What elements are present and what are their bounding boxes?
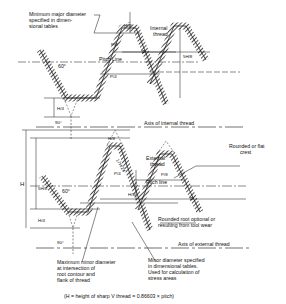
internal-p8-label: P/8	[111, 42, 118, 47]
internal-thread-profile	[18, 12, 240, 140]
internal-pitch-line-label: Pitch Line	[99, 56, 122, 62]
internal-h8-label: H/8	[124, 23, 131, 28]
internal-thread-label-2: thread	[153, 31, 168, 37]
external-thread-label-2: thread	[150, 161, 165, 167]
external-pitch-line-label: Pitch line	[146, 179, 167, 185]
internal-5h8-label: 5H/8	[183, 54, 193, 59]
internal-h4-label: H/4	[57, 106, 64, 111]
external-h4-label: H/4	[38, 218, 45, 223]
minor-note-4: stress areas	[148, 275, 177, 281]
max-minor-note-4: flank of thread	[57, 277, 90, 283]
external-p8-label: P/8	[161, 172, 168, 177]
internal-p-label: P	[142, 49, 146, 55]
internal-90-label: 90°	[55, 120, 62, 125]
internal-axis-label: Axis of internal thread	[144, 120, 194, 126]
external-h8-right-label: H/8	[128, 192, 135, 197]
external-5h8-label: 5H/8	[38, 186, 48, 191]
root-note-2: resulting from tool wear	[158, 222, 212, 228]
external-angle-label: 60°	[62, 188, 70, 194]
crest-note-2: crest	[240, 149, 252, 155]
diagram-canvas: Minimum major diameter specified in dime…	[0, 0, 286, 304]
footer-note: (H = height of sharp V thread = 0.86603 …	[64, 293, 174, 299]
external-p-label: P	[190, 196, 194, 202]
external-h8-label: H/8	[108, 136, 115, 141]
external-90-label: 90°	[57, 240, 64, 245]
external-h-label: H	[20, 181, 24, 187]
internal-angle-label: 60°	[58, 63, 66, 69]
external-axis-label: Axis of external thread	[178, 241, 230, 247]
thread-form-diagram: Minimum major diameter specified in dime…	[0, 0, 286, 304]
internal-p4-label: P/4	[110, 74, 117, 79]
min-major-note-3: sional tables	[29, 23, 58, 29]
external-p4-label: P/4	[114, 171, 121, 176]
